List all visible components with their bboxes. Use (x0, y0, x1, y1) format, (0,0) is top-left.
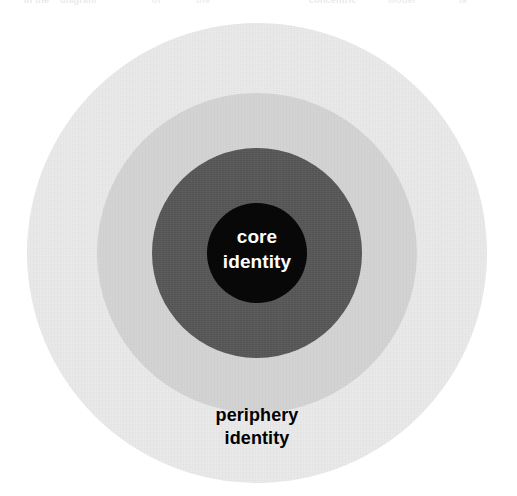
scan-fragment: concentric (309, 0, 357, 5)
scan-fragment: the (196, 0, 210, 5)
scan-fragment: model (388, 0, 416, 5)
periphery-identity-label: periphery identity (127, 404, 387, 451)
scan-fragment: of (152, 0, 161, 5)
core-identity-label: core identity (147, 225, 367, 274)
concentric-identity-diagram: in the diagram of the concentric model i… (0, 0, 517, 496)
scan-fragment: in the (24, 0, 49, 5)
scan-fragment: diagram (60, 0, 96, 5)
scan-fragment: is (459, 0, 467, 5)
scan-text-remnant: in the diagram of the concentric model i… (0, 0, 517, 9)
